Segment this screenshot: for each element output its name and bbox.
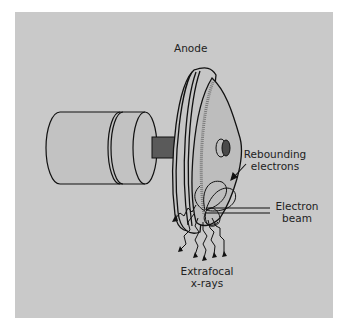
- xrays-label-line2: x-rays: [172, 277, 242, 289]
- extrafocal-x-rays-label: Extrafocal x-rays: [172, 265, 242, 289]
- electron-beam-label: Electron beam: [272, 200, 322, 224]
- beam-label-line1: Electron: [272, 200, 322, 212]
- rebounding-label-line1: Rebounding: [240, 148, 310, 160]
- hub: [216, 139, 230, 157]
- beam-label-line2: beam: [272, 212, 322, 224]
- rebounding-electrons-label: Rebounding electrons: [240, 148, 310, 172]
- rebounding-label-line2: electrons: [240, 160, 310, 172]
- rotor-cylinder: [46, 112, 157, 184]
- xrays-label-line1: Extrafocal: [172, 265, 242, 277]
- anode-label: Anode: [174, 42, 207, 54]
